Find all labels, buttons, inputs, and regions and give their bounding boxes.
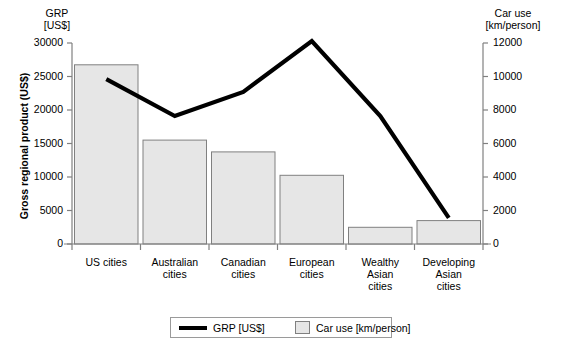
legend-label-car-use: Car use [km/person] xyxy=(316,322,411,334)
plot-area xyxy=(0,0,561,353)
category-label-1: Australiancities xyxy=(141,256,210,280)
category-label-line: cities xyxy=(278,268,347,280)
category-label-line: cities xyxy=(346,280,415,292)
category-label-line: cities xyxy=(415,280,484,292)
bar-5 xyxy=(417,221,481,244)
category-label-line: US cities xyxy=(72,256,141,268)
category-label-5: DevelopingAsiancities xyxy=(415,256,484,292)
legend-label-grp: GRP [US$] xyxy=(213,322,265,334)
legend-item-grp: GRP [US$] xyxy=(179,318,265,337)
left-tick-label: 30000 xyxy=(17,37,63,48)
right-tick-label: 10000 xyxy=(493,71,543,82)
right-tick-label: 12000 xyxy=(493,37,543,48)
left-tick-label: 20000 xyxy=(17,104,63,115)
category-label-line: Asian xyxy=(415,268,484,280)
category-label-2: Canadiancities xyxy=(209,256,278,280)
line-swatch-icon xyxy=(179,326,207,330)
category-label-line: Wealthy xyxy=(346,256,415,268)
bar-3 xyxy=(280,175,344,244)
bar-swatch-icon xyxy=(295,321,310,334)
bar-4 xyxy=(349,227,413,244)
category-label-line: cities xyxy=(209,268,278,280)
left-tick-label: 10000 xyxy=(17,171,63,182)
category-label-3: Europeancities xyxy=(278,256,347,280)
category-label-line: Australian xyxy=(141,256,210,268)
right-tick-label: 6000 xyxy=(493,138,543,149)
right-tick-label: 0 xyxy=(493,238,543,249)
category-label-line: Canadian xyxy=(209,256,278,268)
category-label-line: Developing xyxy=(415,256,484,268)
category-label-line: cities xyxy=(141,268,210,280)
left-tick-label: 0 xyxy=(17,238,63,249)
left-tick-label: 15000 xyxy=(17,138,63,149)
category-label-line: Asian xyxy=(346,268,415,280)
category-label-line: European xyxy=(278,256,347,268)
category-label-4: WealthyAsiancities xyxy=(346,256,415,292)
right-tick-label: 2000 xyxy=(493,205,543,216)
left-tick-label: 25000 xyxy=(17,71,63,82)
category-label-0: US cities xyxy=(72,256,141,268)
bar-1 xyxy=(143,140,207,244)
bar-2 xyxy=(212,152,276,244)
right-tick-label: 4000 xyxy=(493,171,543,182)
legend: GRP [US$] Car use [km/person] xyxy=(170,317,392,338)
right-tick-label: 8000 xyxy=(493,104,543,115)
chart-container: GRP [US$] Car use [km/person] Gross regi… xyxy=(0,0,561,353)
legend-item-car-use: Car use [km/person] xyxy=(295,318,411,337)
left-tick-label: 5000 xyxy=(17,205,63,216)
